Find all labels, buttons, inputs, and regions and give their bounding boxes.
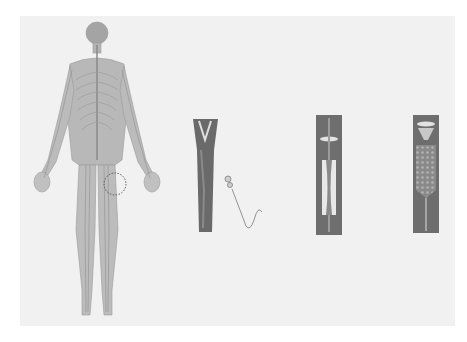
balloon-vessel	[316, 115, 342, 235]
stent-vessel	[413, 115, 439, 233]
human-figure	[34, 22, 160, 315]
medical-illustration	[0, 0, 467, 342]
catheter	[225, 176, 262, 228]
branching-vessel	[193, 119, 218, 232]
figure-caption	[200, 331, 300, 337]
